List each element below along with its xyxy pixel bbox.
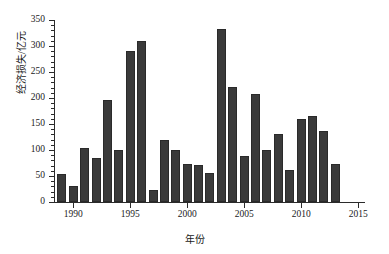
bar-2000 bbox=[183, 164, 192, 203]
y-tick-minor bbox=[51, 181, 55, 182]
y-tick-major bbox=[49, 150, 55, 151]
bar-2009 bbox=[285, 170, 294, 202]
bar-1989 bbox=[57, 174, 66, 202]
bar-1997 bbox=[149, 190, 158, 202]
y-tick-minor bbox=[51, 197, 55, 198]
y-tick-minor bbox=[51, 51, 55, 52]
x-tick bbox=[301, 202, 302, 208]
y-tick-label: 300 bbox=[0, 40, 45, 50]
y-tick-minor bbox=[51, 25, 55, 26]
x-tick bbox=[244, 202, 245, 208]
bar-2011 bbox=[308, 116, 317, 202]
x-tick-label: 1995 bbox=[110, 209, 150, 219]
x-tick-label: 2010 bbox=[281, 209, 321, 219]
bar-2008 bbox=[274, 134, 283, 202]
y-tick-label: 150 bbox=[0, 118, 45, 128]
bar-2001 bbox=[194, 165, 203, 202]
y-tick-minor bbox=[51, 41, 55, 42]
bar-1993 bbox=[103, 100, 112, 202]
y-tick-minor bbox=[51, 62, 55, 63]
y-tick-minor bbox=[51, 160, 55, 161]
bar-1990 bbox=[69, 186, 78, 202]
y-tick-label: 50 bbox=[0, 170, 45, 180]
x-tick bbox=[358, 202, 359, 208]
y-tick-minor bbox=[51, 82, 55, 83]
bar-1995 bbox=[126, 51, 135, 202]
y-tick-minor bbox=[51, 114, 55, 115]
x-tick-label: 2005 bbox=[224, 209, 264, 219]
y-tick-minor bbox=[51, 119, 55, 120]
x-tick-label: 1990 bbox=[53, 209, 93, 219]
bar-1991 bbox=[80, 148, 89, 202]
bar-1996 bbox=[137, 41, 146, 202]
y-tick-major bbox=[49, 176, 55, 177]
y-tick-label: 250 bbox=[0, 66, 45, 76]
y-tick-minor bbox=[51, 93, 55, 94]
y-tick-label: 100 bbox=[0, 144, 45, 154]
bar-2012 bbox=[319, 131, 328, 202]
y-tick-major bbox=[49, 124, 55, 125]
bar-1992 bbox=[92, 158, 101, 202]
y-tick-minor bbox=[51, 192, 55, 193]
y-tick-major bbox=[49, 20, 55, 21]
x-tick bbox=[130, 202, 131, 208]
x-tick-label: 2000 bbox=[167, 209, 207, 219]
y-tick-minor bbox=[51, 171, 55, 172]
bar-2005 bbox=[240, 156, 249, 202]
y-tick-minor bbox=[51, 134, 55, 135]
bar-1994 bbox=[114, 150, 123, 203]
y-tick-minor bbox=[51, 186, 55, 187]
bar-2002 bbox=[205, 173, 214, 202]
y-tick-label: 200 bbox=[0, 92, 45, 102]
y-tick-major bbox=[49, 72, 55, 73]
y-tick-minor bbox=[51, 67, 55, 68]
y-tick-major bbox=[49, 98, 55, 99]
bar-2010 bbox=[297, 119, 306, 202]
bar-1998 bbox=[160, 140, 169, 202]
x-tick bbox=[73, 202, 74, 208]
y-tick-minor bbox=[51, 140, 55, 141]
y-tick-minor bbox=[51, 36, 55, 37]
bar-chart: 经济损失/亿元 年份 050100150200250300350 1990199… bbox=[0, 0, 389, 254]
y-tick-minor bbox=[51, 155, 55, 156]
bar-2004 bbox=[228, 87, 237, 202]
y-tick-label: 0 bbox=[0, 196, 45, 206]
x-axis-label: 年份 bbox=[0, 231, 389, 246]
bar-2003 bbox=[217, 29, 226, 202]
y-tick-minor bbox=[51, 30, 55, 31]
y-tick-minor bbox=[51, 145, 55, 146]
bar-2007 bbox=[262, 150, 271, 203]
y-tick-label: 350 bbox=[0, 14, 45, 24]
y-tick-minor bbox=[51, 103, 55, 104]
x-tick bbox=[187, 202, 188, 208]
y-tick-minor bbox=[51, 77, 55, 78]
bar-2006 bbox=[251, 94, 260, 202]
x-axis-line bbox=[54, 202, 365, 203]
bar-2013 bbox=[331, 164, 340, 202]
y-tick-minor bbox=[51, 166, 55, 167]
y-tick-minor bbox=[51, 129, 55, 130]
y-tick-minor bbox=[51, 88, 55, 89]
y-tick-major bbox=[49, 46, 55, 47]
y-tick-minor bbox=[51, 56, 55, 57]
x-tick-label: 2015 bbox=[338, 209, 378, 219]
bar-1999 bbox=[171, 150, 180, 202]
y-tick-major bbox=[49, 202, 55, 203]
y-tick-minor bbox=[51, 108, 55, 109]
